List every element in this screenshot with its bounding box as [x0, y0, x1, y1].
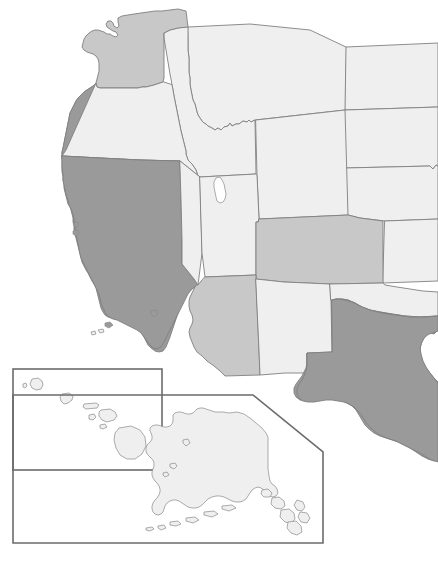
state-WY[interactable]: [256, 110, 348, 219]
us-choropleth-map: [0, 0, 438, 563]
hawaii-inset-group: [13, 369, 162, 470]
aleutian-island: [170, 521, 181, 526]
panhandle-island: [287, 521, 302, 535]
panhandle-island: [271, 497, 285, 509]
island-shape: [105, 322, 113, 328]
island-kauai: [30, 378, 43, 390]
aleutian-island: [204, 511, 218, 517]
state-CO[interactable]: [256, 215, 383, 284]
state-CA-main[interactable]: [62, 156, 198, 349]
panhandle-island: [294, 500, 305, 511]
island-molokai: [83, 403, 99, 409]
island-maui: [99, 409, 117, 422]
island-niihau: [23, 383, 27, 388]
state-UT[interactable]: [200, 174, 259, 277]
map-container: [0, 0, 438, 563]
contiguous-states-layer: [62, 9, 438, 462]
panhandle-island: [280, 509, 295, 523]
island-shape: [98, 329, 104, 333]
aleutian-island: [146, 527, 154, 531]
state-AK[interactable]: [146, 408, 278, 515]
state-ND[interactable]: [345, 43, 438, 110]
hawaii-islands: [23, 378, 146, 459]
aleutian-island: [158, 525, 166, 530]
aleutian-island: [186, 517, 199, 523]
island-shape: [91, 331, 96, 335]
state-AZ[interactable]: [189, 275, 260, 376]
aleutian-island: [222, 505, 236, 511]
alaska-inset-group: [13, 395, 323, 543]
state-SD[interactable]: [345, 107, 438, 169]
island-hawaii: [114, 426, 146, 459]
state-KS[interactable]: [383, 219, 438, 283]
panhandle-island: [298, 512, 310, 523]
island-lanai: [89, 414, 96, 420]
state-NE[interactable]: [345, 165, 438, 221]
alaska-landmass: [146, 408, 310, 535]
island-kahoolawe: [100, 424, 107, 429]
